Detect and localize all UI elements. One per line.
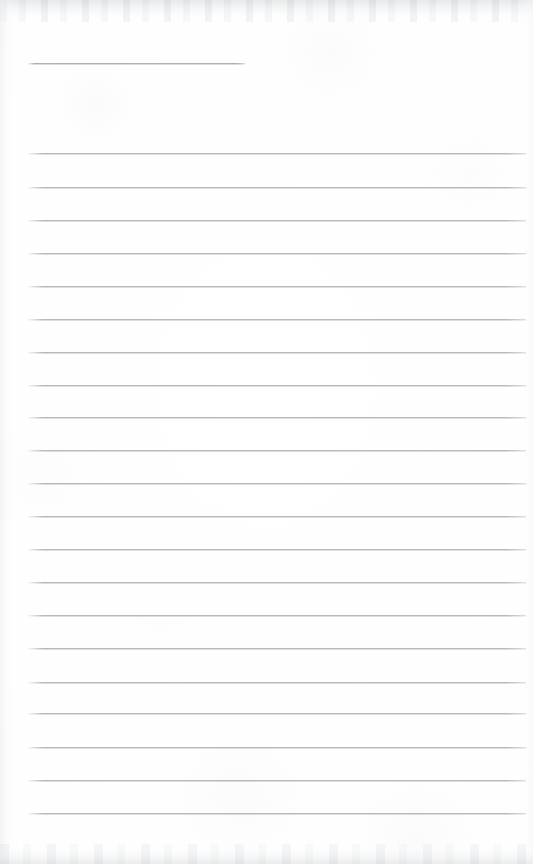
- rule-9: [28, 417, 526, 419]
- rule-5: [28, 286, 526, 288]
- rule-14: [28, 582, 526, 584]
- rule-2: [28, 187, 526, 189]
- rule-15: [28, 615, 526, 617]
- rule-19: [28, 747, 526, 749]
- rule-10: [28, 450, 526, 452]
- rule-21: [28, 813, 526, 815]
- header-rule: [28, 63, 245, 65]
- rule-1: [28, 153, 526, 155]
- scan-artifact-right-edge: [523, 0, 533, 864]
- scan-artifact-bottom-edge: [0, 844, 533, 864]
- rule-8: [28, 385, 526, 387]
- scan-artifact-left-edge: [0, 0, 14, 864]
- rule-4: [28, 253, 526, 255]
- scanned-page: [0, 0, 533, 864]
- rule-17: [28, 682, 526, 684]
- rule-3: [28, 220, 526, 222]
- rule-13: [28, 549, 526, 551]
- rule-18: [28, 713, 526, 715]
- rule-16: [28, 648, 526, 650]
- rule-7: [28, 352, 526, 354]
- rule-6: [28, 319, 526, 321]
- rule-12: [28, 516, 526, 518]
- rule-11: [28, 483, 526, 485]
- scan-artifact-top-edge: [0, 0, 533, 22]
- paper-background: [0, 0, 533, 864]
- rule-20: [28, 780, 526, 782]
